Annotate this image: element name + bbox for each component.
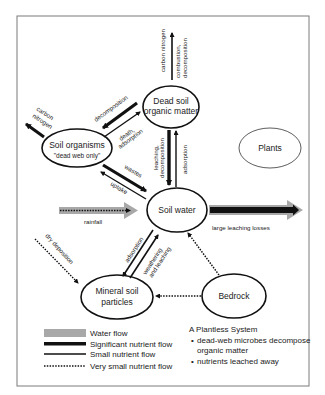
svg-text:Significant nutrient flow: Significant nutrient flow: [90, 340, 172, 349]
node-plants: Plants: [239, 128, 301, 168]
node-label: Plants: [258, 143, 282, 153]
svg-text:large leaching losses: large leaching losses: [212, 224, 270, 231]
legend-item-water-flow: Water flow: [44, 329, 128, 338]
system-title: A Plantless System: [189, 325, 258, 334]
node-label: Dead soil: [153, 96, 189, 106]
svg-text:adsorption: adsorption: [181, 145, 188, 174]
note-2: nutrients leached away: [197, 357, 279, 366]
note-bullet: •: [191, 336, 194, 345]
note-bullet: •: [191, 357, 194, 366]
node-soil-water: Soil water: [147, 188, 207, 232]
node-label: Soil water: [158, 205, 195, 215]
note-1-line1: dead-web microbes decompose: [197, 336, 311, 345]
node-label: Soil organisms: [49, 140, 105, 150]
node-mineral-soil-particles: Mineral soil particles: [81, 275, 153, 319]
svg-text:Small nutrient flow: Small nutrient flow: [90, 350, 156, 359]
note-1-line2: organic matter: [197, 346, 248, 355]
svg-text:rainfall: rainfall: [84, 218, 102, 225]
svg-text:Very small nutrient flow: Very small nutrient flow: [90, 362, 172, 371]
node-label: organic matter: [144, 106, 198, 116]
svg-text:decomposition: decomposition: [181, 38, 188, 78]
node-label: Mineral soil: [96, 286, 139, 296]
node-dead-soil-organic-matter: Dead soil organic matter: [143, 86, 199, 128]
svg-text:combustion,: combustion,: [174, 44, 181, 78]
node-bedrock: Bedrock: [202, 274, 266, 318]
node-label: particles: [101, 297, 133, 307]
nutrient-cycle-diagram: Dead soil organic matter Soil organisms …: [0, 0, 325, 395]
node-sublabel: "dead web only": [54, 152, 101, 160]
svg-text:carbon nitrogen: carbon nitrogen: [159, 28, 166, 72]
svg-text:Water flow: Water flow: [90, 329, 128, 338]
node-label: Bedrock: [218, 291, 250, 301]
svg-text:decomposition: decomposition: [158, 138, 165, 178]
node-soil-organisms: Soil organisms "dead web only": [42, 129, 112, 167]
